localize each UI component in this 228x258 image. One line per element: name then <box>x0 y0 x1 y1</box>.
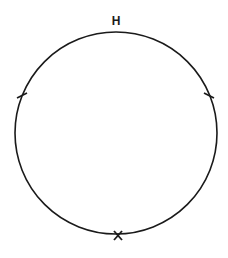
top-label: H <box>112 14 121 28</box>
circle-diagram: H <box>0 0 228 258</box>
main-circle <box>15 32 217 234</box>
bottom-x-marker <box>114 231 122 240</box>
